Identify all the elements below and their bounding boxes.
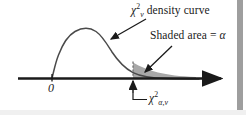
- density-curve-pointer-arrow: [111, 19, 146, 39]
- density-curve-label-text: density curve: [147, 4, 210, 16]
- chi-subscript-nu: ν: [140, 10, 144, 19]
- shaded-area-pointer-arrow: [145, 46, 172, 72]
- shaded-area-label-text: Shaded area =: [150, 29, 220, 41]
- bottom-edge-band: [0, 110, 246, 115]
- chi-square-figure: χ2ν density curve Shaded area = α 0 χ2α,…: [0, 0, 246, 115]
- critical-value-label: χ2α,ν: [149, 93, 168, 105]
- shaded-area-label: Shaded area = α: [150, 30, 226, 42]
- critical-chi-subscript: α,ν: [158, 98, 168, 107]
- chi-square-plot: [0, 0, 246, 115]
- origin-label: 0: [48, 82, 54, 94]
- right-edge-band: [237, 0, 243, 115]
- alpha-symbol: α: [220, 29, 226, 41]
- critical-value-leader-line: [133, 93, 147, 100]
- density-curve-label: χ2ν density curve: [131, 5, 210, 17]
